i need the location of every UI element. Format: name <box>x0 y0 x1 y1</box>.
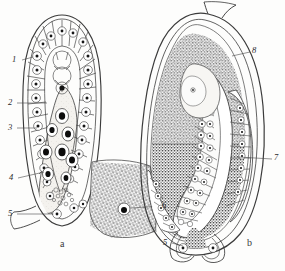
funiculus-upper <box>14 206 36 212</box>
callout-a-1: 1 <box>12 55 16 64</box>
callout-a-5: 5 <box>8 209 12 218</box>
callout-b-7: 7 <box>274 153 278 162</box>
drawing-canvas <box>0 0 285 271</box>
callout-a-3: 3 <box>8 123 12 132</box>
figure-footnote <box>4 263 280 271</box>
micropyle-left <box>204 2 208 14</box>
micropyle-tip <box>204 2 236 5</box>
callout-b-5: 5 <box>163 238 167 247</box>
chalaza-nucleus <box>121 207 127 213</box>
callout-a-4: 4 <box>9 173 13 182</box>
figure-plate: 1 2 3 4 5 6 8 7 5 a b <box>0 0 285 271</box>
panel-caption-b: b <box>247 238 252 248</box>
funiculus-lower <box>14 220 40 229</box>
panel-a-drawing <box>11 2 272 263</box>
panel-caption-a: a <box>60 239 64 249</box>
callout-a-2: 2 <box>8 98 12 107</box>
callout-a-6: 6 <box>162 201 166 210</box>
micropyle-right <box>222 5 236 18</box>
central-nucleus <box>59 85 64 90</box>
callout-b-8: 8 <box>252 46 256 55</box>
